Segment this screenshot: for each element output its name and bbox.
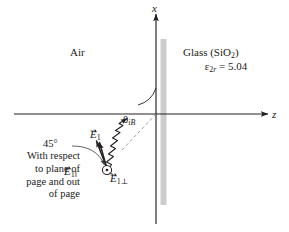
polarization-angle-value: 45° (43, 138, 58, 150)
theta-subscript: iB (128, 118, 135, 127)
permittivity-subscript-r: r (213, 65, 216, 74)
air-medium-label: Air (70, 46, 85, 59)
e1-vector-glyph: E (90, 128, 97, 141)
e1-subscript: 1 (97, 133, 101, 142)
z-axis-label: z (272, 108, 276, 121)
caption-line-3: page and out (4, 176, 80, 189)
theta-ib-angle-arc (138, 88, 156, 105)
e1-total-label: E1 (90, 128, 101, 143)
e1-parallel-field-arrow (100, 143, 108, 169)
e1-perpendicular-vector-glyph: E (110, 172, 117, 185)
e1-perpendicular-label: E1⊥ (110, 172, 128, 187)
glass-name-tail: ) (235, 46, 239, 58)
polarization-caption: With respect to plane of page and out of… (4, 150, 80, 201)
theta-ib-label: θiB (123, 113, 135, 128)
brewster-angle-figure: x z Air Glass (SiO2) ε2r = 5.04 θiB E1 E… (0, 0, 289, 232)
glass-interface-bar (161, 39, 167, 205)
out-of-page-dot-icon (106, 169, 109, 172)
e1-perpendicular-subscript: 1⊥ (117, 177, 128, 186)
glass-medium-label: Glass (SiO2) (183, 46, 239, 61)
e1-perpendicular-symbol: E (110, 172, 117, 184)
x-axis-label: x (152, 2, 157, 15)
caption-line-1: With respect (4, 150, 80, 163)
glass-permittivity-label: ε2r = 5.04 (183, 60, 269, 75)
permittivity-value: = 5.04 (219, 60, 247, 72)
glass-medium-name: Glass (SiO (183, 46, 231, 58)
caption-line-4: of page (4, 188, 80, 201)
caption-line-2: to plane of (4, 163, 80, 176)
e1-symbol: E (90, 128, 97, 140)
